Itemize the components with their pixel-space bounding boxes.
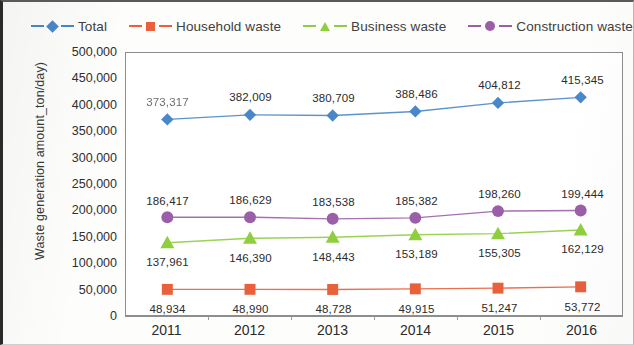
data-point-label: 373,317 — [146, 96, 189, 108]
square-marker-icon — [146, 22, 155, 31]
data-point-marker[interactable] — [162, 284, 173, 295]
data-point-marker[interactable] — [161, 113, 173, 125]
legend-item-household-waste[interactable]: Household waste — [129, 19, 281, 34]
data-point-marker[interactable] — [492, 205, 504, 217]
data-point-marker[interactable] — [327, 284, 338, 295]
y-axis-tick-label: 200,000 — [39, 203, 117, 217]
diamond-marker-icon — [48, 22, 57, 31]
data-point-label: 186,629 — [229, 194, 272, 206]
data-point-label: 51,247 — [481, 302, 517, 314]
data-point-marker[interactable] — [575, 205, 587, 217]
x-axis-tick-label: 2014 — [400, 322, 431, 338]
x-axis-tick-label: 2011 — [151, 322, 181, 338]
data-point-marker[interactable] — [493, 283, 504, 294]
series-lines-and-markers — [126, 53, 622, 315]
y-axis-tick-label: 500,000 — [39, 45, 117, 59]
chart-legend: TotalHousehold wasteBusiness wasteConstr… — [31, 14, 629, 38]
data-point-label: 185,382 — [395, 195, 438, 207]
chart-figure: TotalHousehold wasteBusiness wasteConstr… — [0, 0, 634, 345]
y-axis-tick-label: 0 — [39, 309, 117, 323]
legend-item-business-waste[interactable]: Business waste — [303, 19, 446, 34]
data-point-label: 49,915 — [398, 303, 434, 315]
data-point-marker[interactable] — [410, 283, 421, 294]
legend-label: Household waste — [176, 19, 281, 34]
y-axis-tick-label: 100,000 — [39, 256, 117, 270]
legend-label: Business waste — [351, 19, 446, 34]
data-point-label: 380,709 — [312, 92, 355, 104]
x-axis-tick-mark — [208, 316, 209, 320]
data-point-label: 155,305 — [478, 247, 521, 259]
x-axis-tick-label: 2013 — [317, 322, 348, 338]
x-axis-tick-labels: 201120122013201420152016 — [125, 322, 623, 345]
y-axis-tick-label: 300,000 — [39, 151, 117, 165]
data-point-marker[interactable] — [409, 105, 421, 117]
x-axis-tick-mark — [291, 316, 292, 320]
y-axis-tick-label: 50,000 — [39, 283, 117, 297]
data-point-label: 199,444 — [561, 188, 604, 200]
data-point-label: 183,538 — [312, 196, 355, 208]
x-axis-tick-label: 2015 — [483, 322, 514, 338]
legend-line-segment — [468, 25, 481, 27]
data-point-marker[interactable] — [492, 97, 504, 109]
legend-line-segment — [159, 25, 172, 27]
legend-line-segment — [31, 25, 44, 27]
legend-item-total[interactable]: Total — [31, 19, 107, 34]
data-point-marker[interactable] — [161, 211, 173, 223]
data-point-label: 48,934 — [149, 303, 185, 315]
data-point-label: 388,486 — [395, 88, 438, 100]
plot-area: 373,317382,009380,709388,486404,812415,3… — [125, 52, 623, 316]
data-point-marker[interactable] — [245, 284, 256, 295]
x-axis-tick-mark — [540, 316, 541, 320]
y-axis-tick-label: 250,000 — [39, 177, 117, 191]
data-point-label: 198,260 — [478, 188, 521, 200]
legend-line-segment — [334, 25, 347, 27]
legend-line-segment — [499, 25, 512, 27]
legend-label: Total — [78, 19, 107, 34]
data-point-label: 137,961 — [146, 256, 189, 268]
data-point-marker[interactable] — [244, 109, 256, 121]
legend-label: Construction waste — [516, 19, 633, 34]
data-point-marker[interactable] — [244, 211, 256, 223]
data-point-label: 186,417 — [146, 195, 189, 207]
y-axis-tick-label: 350,000 — [39, 124, 117, 138]
triangle-marker-icon — [320, 22, 330, 31]
data-point-marker[interactable] — [575, 281, 586, 292]
x-axis-tick-mark — [457, 316, 458, 320]
x-axis-tick-mark — [374, 316, 375, 320]
data-point-marker[interactable] — [326, 109, 338, 121]
data-point-label: 162,129 — [561, 243, 604, 255]
data-point-label: 415,345 — [561, 74, 604, 86]
data-point-label: 146,390 — [229, 252, 272, 264]
x-axis-tick-label: 2016 — [566, 322, 597, 338]
y-axis-tick-label: 150,000 — [39, 230, 117, 244]
legend-line-segment — [303, 25, 316, 27]
x-axis-tick-label: 2012 — [234, 322, 265, 338]
data-point-label: 382,009 — [229, 91, 272, 103]
data-point-marker[interactable] — [409, 212, 421, 224]
y-axis-tick-label: 400,000 — [39, 98, 117, 112]
y-axis-tick-label: 450,000 — [39, 71, 117, 85]
y-axis-tick-labels: 500,000450,000400,000350,000300,000250,0… — [39, 48, 117, 316]
data-point-marker[interactable] — [327, 213, 339, 225]
legend-item-construction-waste[interactable]: Construction waste — [468, 19, 633, 34]
data-point-label: 153,189 — [395, 248, 438, 260]
legend-line-segment — [61, 25, 74, 27]
data-point-marker[interactable] — [574, 91, 586, 103]
series-line-household-waste — [167, 287, 580, 290]
circle-marker-icon — [485, 21, 495, 31]
data-point-label: 53,772 — [564, 301, 600, 313]
data-point-marker[interactable] — [574, 223, 588, 236]
legend-line-segment — [129, 25, 142, 27]
data-point-label: 404,812 — [478, 79, 521, 91]
data-point-label: 48,990 — [232, 303, 268, 315]
data-point-label: 148,443 — [312, 251, 355, 263]
series-line-business-waste — [167, 230, 580, 243]
data-point-label: 48,728 — [315, 303, 351, 315]
series-line-construction-waste — [167, 210, 580, 218]
